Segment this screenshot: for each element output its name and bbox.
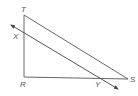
label-t: T	[21, 5, 27, 14]
triangle-diagram: T X R Y S	[0, 0, 138, 96]
label-r: R	[20, 80, 26, 89]
label-x: X	[12, 32, 19, 41]
label-y: Y	[95, 80, 101, 89]
segment-ts	[24, 15, 128, 79]
line-xy	[11, 25, 118, 89]
label-s: S	[130, 75, 136, 84]
segment-rs	[24, 77, 128, 79]
